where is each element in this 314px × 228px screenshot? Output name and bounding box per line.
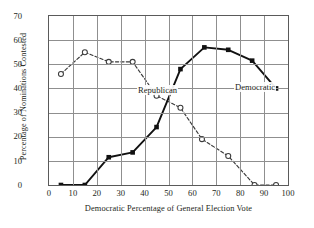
x-tick-label: 0 <box>37 189 61 198</box>
x-tick-label: 90 <box>252 189 276 198</box>
x-tick-label: 80 <box>228 189 252 198</box>
gridline-vertical <box>192 16 193 185</box>
gridline-horizontal <box>49 161 288 162</box>
gridline-vertical <box>145 16 146 185</box>
y-tick-label: 10 <box>0 157 22 166</box>
series-label-republican: Republican <box>137 85 178 95</box>
chart-figure: Percentage of Nominations Contested Demo… <box>0 0 314 228</box>
y-tick-label: 60 <box>0 36 22 45</box>
plot-area: Republican Democratic <box>48 15 289 186</box>
x-tick-label: 100 <box>276 189 300 198</box>
x-tick-label: 50 <box>157 189 181 198</box>
gridline-vertical <box>73 16 74 185</box>
y-tick-label: 50 <box>0 60 22 69</box>
series-label-democratic: Democratic <box>234 82 276 92</box>
gridline-vertical <box>121 16 122 185</box>
gridlines <box>49 16 288 185</box>
gridline-vertical <box>216 16 217 185</box>
y-tick-label: 20 <box>0 132 22 141</box>
gridline-vertical <box>240 16 241 185</box>
x-tick-label: 20 <box>85 189 109 198</box>
y-tick-label: 30 <box>0 108 22 117</box>
y-tick-label: 0 <box>0 181 22 190</box>
y-tick-label: 40 <box>0 84 22 93</box>
x-tick-label: 70 <box>204 189 228 198</box>
gridline-horizontal <box>49 137 288 138</box>
x-tick-label: 40 <box>133 189 157 198</box>
x-tick-label: 30 <box>109 189 133 198</box>
gridline-horizontal <box>49 64 288 65</box>
gridline-vertical <box>264 16 265 185</box>
gridline-horizontal <box>49 40 288 41</box>
x-axis-title: Democratic Percentage of General Electio… <box>48 204 289 213</box>
x-tick-label: 10 <box>61 189 85 198</box>
gridline-horizontal <box>49 113 288 114</box>
gridline-vertical <box>97 16 98 185</box>
y-tick-label: 70 <box>0 12 22 21</box>
x-tick-label: 60 <box>180 189 204 198</box>
gridline-vertical <box>169 16 170 185</box>
